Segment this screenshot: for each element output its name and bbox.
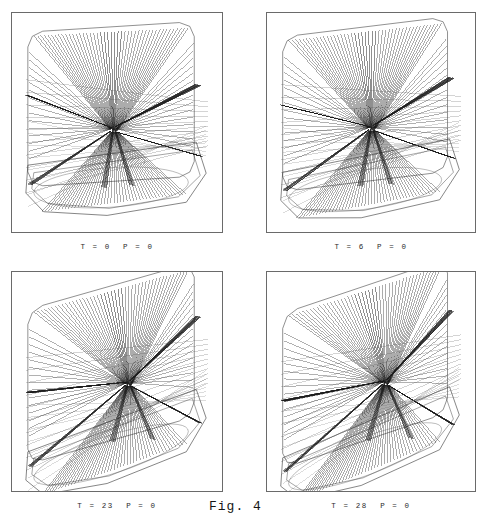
figure-root: T = 0 P = 0 T = 6 P = 0 T = 23 P = 0 T =… [0, 0, 486, 520]
panel-caption-bottom-left: T = 23 P = 0 [11, 502, 223, 510]
ray-diagram-bottom-left [12, 272, 222, 491]
panel-caption-top-left: T = 0 P = 0 [11, 243, 223, 251]
panel-top-left [11, 12, 223, 233]
ray-diagram-top-left [12, 13, 222, 232]
ray-diagram-top-right [267, 13, 475, 232]
panel-caption-top-right: T = 6 P = 0 [266, 243, 476, 251]
ray-diagram-bottom-right [267, 272, 475, 491]
figure-label: Fig. 4 [209, 499, 262, 514]
panel-top-right [266, 12, 476, 233]
panel-bottom-right [266, 271, 476, 492]
panel-caption-bottom-right: T = 28 P = 0 [266, 502, 476, 510]
panel-bottom-left [11, 271, 223, 492]
